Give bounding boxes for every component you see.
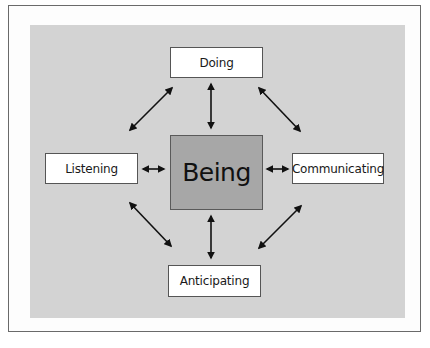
arrow-communicating-anticipating (259, 206, 301, 248)
node-communicating-label: Communicating (292, 162, 384, 176)
node-anticipating-label: Anticipating (180, 274, 250, 288)
node-being-center: Being (170, 135, 263, 210)
node-communicating: Communicating (292, 153, 384, 184)
node-being-label: Being (182, 158, 251, 187)
node-doing: Doing (170, 47, 263, 78)
arrow-listening-anticipating (130, 203, 171, 246)
node-doing-label: Doing (199, 56, 233, 70)
arrow-doing-listening (130, 88, 172, 130)
node-anticipating: Anticipating (168, 265, 261, 297)
node-listening: Listening (45, 153, 138, 184)
node-listening-label: Listening (65, 162, 118, 176)
arrow-doing-communicating (259, 88, 300, 131)
